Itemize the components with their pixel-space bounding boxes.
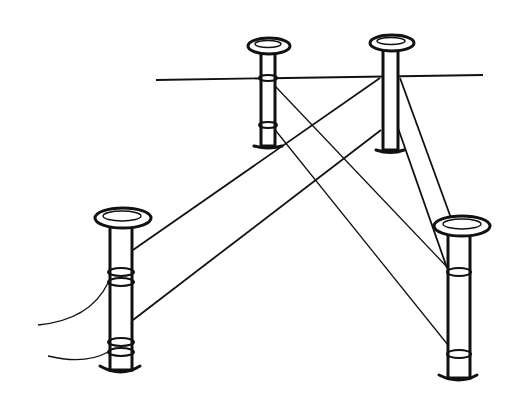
strings (133, 78, 451, 345)
post-front-left (38, 208, 151, 372)
posts-and-strings-diagram (0, 0, 528, 414)
post-rear-right (370, 35, 414, 153)
horizon-line (156, 75, 483, 80)
post-front-right (434, 216, 490, 380)
post-rear-left (248, 38, 290, 148)
